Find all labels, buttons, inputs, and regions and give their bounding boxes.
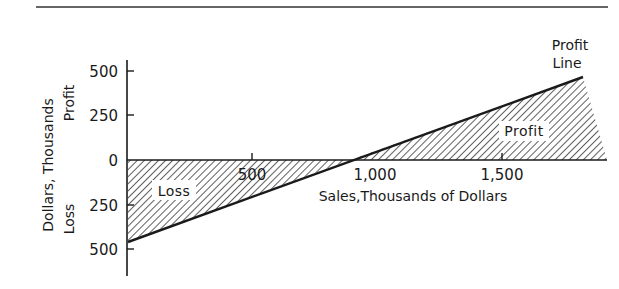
y-tick-label: 0 (108, 152, 118, 170)
x-axis-title: Sales,Thousands of Dollars (319, 188, 508, 204)
x-tick-label: 1,000 (354, 166, 397, 184)
profit-region-label: Profit (504, 123, 544, 139)
y-tick-label: 500 (89, 241, 118, 259)
y-tick-label: 500 (89, 63, 118, 81)
break-even-chart: 500 250 0 250 500 500 1,000 1,500 Sales,… (0, 0, 619, 289)
loss-region-label: Loss (158, 183, 191, 199)
y-tick-label: 250 (89, 107, 118, 125)
y-tick-label: 250 (89, 197, 118, 215)
profit-line-label: Profit (552, 37, 589, 53)
x-tick-label: 500 (238, 166, 267, 184)
profit-line-label: Line (552, 55, 581, 71)
y-axis-profit-label: Profit (61, 84, 77, 121)
y-axis-title: Dollars, Thousands (40, 98, 56, 231)
y-axis-loss-label: Loss (61, 204, 77, 235)
x-tick-label: 1,500 (481, 166, 524, 184)
